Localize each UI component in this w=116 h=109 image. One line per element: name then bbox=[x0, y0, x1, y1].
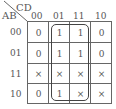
kmap-grid: 0 1 1 0 0 1 1 0 × × × × 0 1 × × bbox=[27, 21, 112, 104]
kmap-cell: 0 bbox=[91, 22, 112, 43]
col-label-00: 00 bbox=[31, 12, 42, 21]
row-variable-label: AB bbox=[2, 11, 17, 21]
col-label-11: 11 bbox=[73, 12, 84, 21]
row-label-10: 10 bbox=[10, 90, 21, 99]
kmap-cell: 0 bbox=[28, 43, 49, 64]
col-label-10: 10 bbox=[95, 12, 106, 21]
kmap-cell: × bbox=[91, 63, 112, 84]
kmap-cell: × bbox=[91, 83, 112, 104]
row-label-01: 01 bbox=[10, 49, 21, 58]
row-label-11: 11 bbox=[10, 70, 21, 79]
col-label-01: 01 bbox=[53, 12, 64, 21]
grouping-loop bbox=[51, 24, 89, 101]
col-variable-label: CD bbox=[16, 3, 32, 13]
kmap-cell: 0 bbox=[28, 22, 49, 43]
kmap-cell: 0 bbox=[91, 43, 112, 64]
kmap-cell: × bbox=[28, 63, 49, 84]
kmap-cell: 0 bbox=[28, 83, 49, 104]
row-label-00: 00 bbox=[10, 28, 21, 37]
